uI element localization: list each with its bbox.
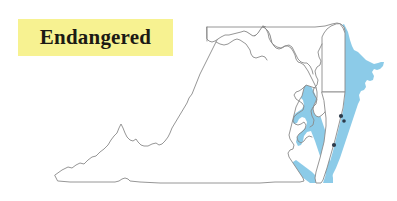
eastern-shore-site-1-dot (339, 114, 343, 118)
delaware-outline (322, 24, 345, 92)
endangered-label-highlight: Endangered (18, 19, 173, 56)
eastern-shore-site-3-dot (332, 143, 336, 147)
map-figure: Endangered (0, 0, 397, 201)
eastern-shore-site-2-dot (342, 119, 346, 123)
endangered-label-text: Endangered (40, 27, 151, 48)
